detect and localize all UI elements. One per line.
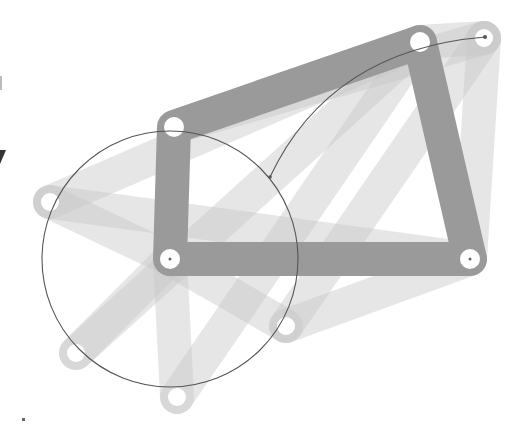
- linkage-diagram: [0, 0, 523, 431]
- joint-bottom-left-pin: [169, 258, 172, 261]
- ghost-joint-hole: [41, 193, 59, 211]
- ghost-joint-hole: [67, 344, 85, 362]
- arc-end-dot: [483, 35, 487, 39]
- stray-dot: [22, 418, 25, 421]
- ghost-joint-hole: [168, 388, 186, 406]
- joint-bottom-right-pin: [469, 258, 472, 261]
- edge-mark-upper: [0, 76, 2, 90]
- joint-top-left-hole: [164, 117, 184, 137]
- coupler-point-dot: [268, 175, 272, 179]
